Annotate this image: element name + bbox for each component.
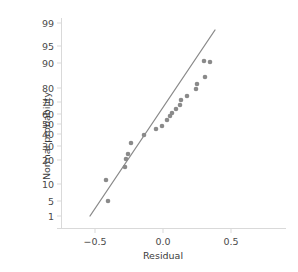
data-point [124, 157, 129, 162]
data-point [126, 152, 131, 157]
data-point [142, 133, 147, 138]
y-tick-label-90: 90 [28, 58, 54, 69]
data-point [170, 111, 175, 116]
x-tick-label-neg-0-5: −0.5 [83, 236, 106, 247]
data-point [202, 59, 207, 64]
normal-probability-plot: 99 95 90 80 70 60 50 40 30 20 10 5 1 −0.… [0, 0, 298, 272]
data-point [178, 103, 183, 108]
y-tick-label-95: 95 [28, 41, 54, 52]
data-point [203, 75, 208, 80]
data-point [174, 107, 179, 112]
data-point [129, 141, 134, 146]
x-axis-label: Residual [143, 250, 183, 261]
data-point [160, 124, 165, 129]
data-point [106, 199, 111, 204]
data-point [185, 94, 190, 99]
data-point [154, 127, 159, 132]
data-point [208, 60, 213, 65]
data-point [123, 165, 128, 170]
y-tick-label-5: 5 [28, 196, 54, 207]
x-tick-label-0-0: 0.0 [155, 236, 170, 247]
y-axis-label: Normal probability [41, 92, 52, 180]
data-point [194, 87, 199, 92]
y-tick-label-1: 1 [28, 211, 54, 222]
data-point [104, 178, 109, 183]
data-point [165, 118, 170, 123]
data-point [179, 98, 184, 103]
data-point [195, 82, 200, 87]
y-tick-label-99: 99 [28, 18, 54, 29]
y-tick-label-10: 10 [28, 179, 54, 190]
x-tick-label-0-5: 0.5 [223, 236, 238, 247]
